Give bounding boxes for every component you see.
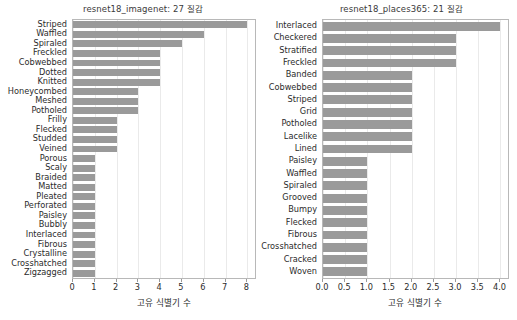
y-axis-tick-label: Paisley — [289, 156, 317, 164]
y-axis-tick-label: Pleated — [36, 192, 67, 200]
y-axis-tick-label: Studded — [33, 134, 67, 142]
y-axis-tick-label: Crosshatched — [261, 242, 317, 250]
bar — [73, 241, 95, 248]
bar — [323, 194, 367, 203]
x-axis-tick-label: 8 — [244, 282, 249, 292]
bar — [73, 136, 117, 143]
bar — [73, 155, 95, 162]
y-axis-tick-label: Flecked — [36, 125, 67, 133]
bar — [323, 169, 367, 178]
bar — [323, 22, 500, 31]
plot-area-places365 — [322, 19, 509, 279]
x-axis-tick-label: 0.5 — [338, 282, 351, 292]
x-axis-title-imagenet: 고유 식별기 수 — [137, 296, 190, 308]
x-axis-tick-mark — [181, 279, 182, 282]
y-axis-tick-label: Perforated — [24, 201, 67, 209]
y-axis-tick-label: Paisley — [39, 211, 67, 219]
x-axis-tick-mark — [203, 279, 204, 282]
bar — [73, 126, 117, 133]
bar — [73, 88, 138, 95]
bar — [73, 251, 95, 258]
y-axis-tick-label: Striped — [38, 20, 67, 28]
y-axis-tick-label: Dotted — [39, 67, 67, 75]
bar — [73, 165, 95, 172]
bar — [73, 21, 247, 28]
y-axis-tick-label: Knitted — [38, 77, 68, 85]
bar — [73, 98, 138, 105]
x-axis-tick-label: 3.5 — [471, 282, 484, 292]
bar — [323, 145, 412, 154]
x-axis-tick-mark — [137, 279, 138, 282]
bar — [73, 232, 95, 239]
bar — [73, 174, 95, 181]
x-axis-tick-mark — [433, 279, 434, 282]
chart-panel-imagenet: resnet18_imagenet: 27 질감 StripedWaffledS… — [0, 0, 258, 320]
y-axis-tick-label: Scaly — [45, 163, 67, 171]
x-axis-tick-label: 2.0 — [404, 282, 417, 292]
x-axis-tick-label: 0.0 — [315, 282, 328, 292]
y-axis-tick-label: Waffled — [286, 168, 317, 176]
gridline — [247, 20, 248, 278]
bar — [323, 95, 412, 104]
bar — [323, 59, 456, 68]
y-axis-tick-label: Crosshatched — [11, 259, 67, 267]
gridline — [226, 20, 227, 278]
x-axis-tick-label: 3.0 — [449, 282, 462, 292]
y-axis-tick-label: Waffled — [36, 29, 67, 37]
gridline — [500, 20, 501, 278]
y-axis-tick-label: Honeycombed — [8, 87, 67, 95]
y-axis-tick-label: Crystalline — [24, 249, 67, 257]
x-axis-tick-label: 6 — [200, 282, 205, 292]
y-axis-tick-label: Potholed — [281, 119, 317, 127]
bar — [323, 71, 412, 80]
x-axis-tick-mark — [366, 279, 367, 282]
plot-area-imagenet — [72, 19, 256, 279]
x-axis-tick-mark — [246, 279, 247, 282]
y-axis-tick-label: Cracked — [284, 254, 317, 262]
bar — [323, 83, 412, 92]
y-axis-tick-label: Freckled — [283, 58, 317, 66]
x-axis-tick-label: 1.5 — [382, 282, 395, 292]
bar — [73, 40, 182, 47]
gridline — [160, 20, 161, 278]
bar — [323, 34, 456, 43]
y-axis-tick-label: Grid — [300, 107, 317, 115]
x-axis-tick-mark — [116, 279, 117, 282]
bar — [323, 120, 412, 129]
y-axis-labels-imagenet: StripedWaffledSpiraledFreckledCobwebbedD… — [0, 19, 70, 279]
y-axis-tick-label: Fibrous — [38, 239, 67, 247]
y-axis-labels-places365: InterlacedCheckeredStratifiedFreckledBan… — [252, 19, 320, 279]
x-axis-tick-label: 4 — [157, 282, 162, 292]
bar — [73, 31, 204, 38]
chart-title-places365: resnet18_places365: 21 질감 — [258, 2, 517, 14]
x-axis-tick-label: 0 — [69, 282, 74, 292]
y-axis-tick-label: Woven — [289, 267, 317, 275]
x-axis-tick-mark — [411, 279, 412, 282]
bar — [323, 157, 367, 166]
bar — [73, 260, 95, 267]
bar — [323, 255, 367, 264]
x-axis-tick-mark — [344, 279, 345, 282]
y-axis-tick-label: Interlaced — [276, 21, 317, 29]
gridline — [182, 20, 183, 278]
x-axis-tick-mark — [499, 279, 500, 282]
bar — [73, 146, 117, 153]
x-axis-tick-label: 1 — [91, 282, 96, 292]
bar — [73, 203, 95, 210]
x-axis-tick-mark — [477, 279, 478, 282]
y-axis-tick-label: Spiraled — [33, 39, 67, 47]
y-axis-tick-label: Braided — [35, 173, 67, 181]
y-axis-tick-label: Bumpy — [288, 205, 317, 213]
bar — [323, 231, 367, 240]
y-axis-tick-label: Porous — [40, 153, 67, 161]
bar — [73, 212, 95, 219]
y-axis-tick-label: Checkered — [274, 33, 317, 41]
gridline — [204, 20, 205, 278]
y-axis-tick-label: Striped — [288, 95, 317, 103]
y-axis-tick-label: Zigzagged — [24, 268, 67, 276]
bar — [73, 222, 95, 229]
y-axis-tick-label: Fibrous — [288, 230, 317, 238]
x-axis-tick-label: 2.5 — [426, 282, 439, 292]
bar — [323, 132, 412, 141]
x-axis-tick-mark — [225, 279, 226, 282]
